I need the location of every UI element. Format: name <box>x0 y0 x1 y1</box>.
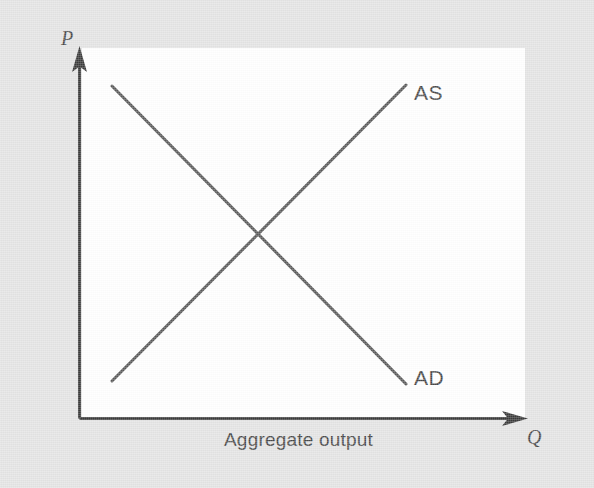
ad-curve-label: AD <box>414 367 444 388</box>
x-axis-title: Aggregate output <box>224 430 373 449</box>
x-axis-symbol-label: Q <box>527 427 541 447</box>
y-axis-symbol-label: P <box>61 28 73 48</box>
chart-canvas <box>0 0 594 488</box>
as-curve-label: AS <box>414 82 443 103</box>
ad-as-diagram-figure: AS AD P Q Aggregate output Price level <box>0 0 594 488</box>
plot-panel <box>82 48 525 420</box>
